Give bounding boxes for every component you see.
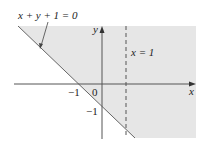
region-diagram: x + y + 1 = 0 x = 1 x y −1 0 −1	[0, 0, 204, 151]
x-tick-minus-1: −1	[68, 86, 80, 98]
origin-label: 0	[92, 86, 98, 98]
x-axis-label: x	[188, 85, 194, 97]
y-axis-label: y	[92, 23, 98, 35]
equation-label: x + y + 1 = 0	[17, 9, 78, 21]
vertical-line-label: x = 1	[130, 46, 154, 58]
y-tick-minus-1: −1	[86, 105, 98, 117]
shaded-region	[18, 26, 196, 138]
